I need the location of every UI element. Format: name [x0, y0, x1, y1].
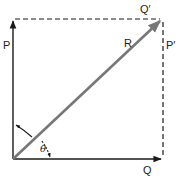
label-q: Q — [143, 164, 152, 176]
label-q-prime: Q′ — [140, 3, 151, 15]
label-r: R — [124, 37, 132, 49]
vector-r-resultant — [13, 21, 160, 159]
label-theta: θ — [40, 143, 46, 154]
label-p: P — [3, 39, 10, 51]
label-p-prime: P′ — [166, 39, 175, 51]
angle-arc-p-r — [16, 125, 32, 137]
vector-diagram: P Q′ R P′ Q θ — [0, 0, 180, 181]
